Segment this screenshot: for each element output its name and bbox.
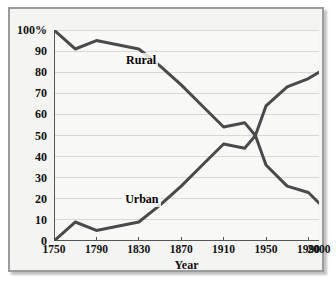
- y-tick-label: 50: [35, 130, 47, 142]
- y-tick-label: 30: [35, 172, 47, 184]
- y-tick-label: 100%: [17, 24, 47, 36]
- series-label-urban: Urban: [123, 192, 160, 207]
- chart-figure: 0102030405060708090100% Rural Urban 1750…: [0, 0, 336, 285]
- x-axis-title: Year: [54, 258, 319, 273]
- plot-area: Rural Urban: [54, 30, 319, 241]
- x-tick-label: 1830: [127, 243, 150, 256]
- x-tick-label: 1870: [170, 243, 193, 256]
- x-tick-label: 2000: [308, 243, 331, 256]
- x-tick-label: 1910: [212, 243, 235, 256]
- x-tick-label: 1950: [255, 243, 278, 256]
- chart-frame: 0102030405060708090100% Rural Urban 1750…: [8, 7, 324, 272]
- y-tick-label: 10: [35, 214, 47, 226]
- series-label-rural: Rural: [124, 53, 158, 68]
- y-axis-tick-labels: 0102030405060708090100%: [10, 30, 52, 241]
- x-tick-label: 1750: [43, 243, 66, 256]
- y-tick-label: 80: [35, 66, 47, 78]
- y-tick-label: 20: [35, 193, 47, 205]
- x-axis-tick-labels: 17501790183018701910195019902000: [54, 243, 319, 259]
- x-tick-label: 1790: [85, 243, 108, 256]
- series-line-rural: [54, 30, 319, 203]
- y-tick-label: 70: [35, 87, 47, 99]
- y-tick-label: 60: [35, 108, 47, 120]
- plot-canvas: [54, 30, 319, 241]
- gridlines: [54, 30, 319, 241]
- y-tick-label: 90: [35, 45, 47, 57]
- y-tick-label: 40: [35, 151, 47, 163]
